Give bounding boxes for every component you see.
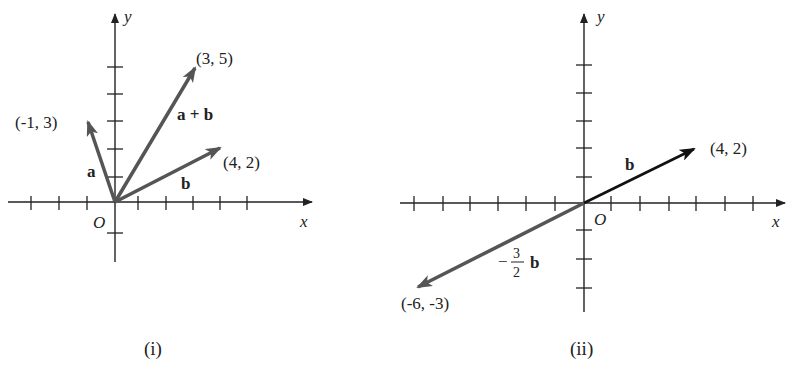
point-label-neg-three-halves-b: (-6, -3) — [401, 294, 449, 313]
point-label-a: (-1, 3) — [15, 113, 57, 132]
vector-label-neg-three-halves-b: − 3 2 b — [498, 246, 539, 280]
x-ticks — [31, 196, 247, 210]
figure-i: y x O (-1, 3) (3, 5) (4, 2) a a + b b (i… — [8, 7, 312, 360]
figure-ii: y x O (4, 2) (-6, -3) b − 3 2 b (ii) — [400, 7, 785, 360]
origin-label: O — [93, 213, 105, 232]
vector-label-b: b — [625, 155, 634, 174]
fraction-b: b — [530, 253, 539, 272]
origin-label: O — [594, 210, 606, 229]
vector-b — [584, 149, 694, 203]
vector-label-a-plus-b: a + b — [177, 105, 213, 124]
caption-i: (i) — [144, 338, 162, 360]
vector-neg-three-halves-b — [418, 203, 584, 287]
point-label-a-plus-b: (3, 5) — [196, 49, 233, 68]
x-axis-label: x — [299, 212, 308, 231]
minus-sign: − — [498, 252, 508, 271]
vector-label-b: b — [181, 174, 190, 193]
vector-label-a: a — [87, 162, 96, 181]
point-label-b: (4, 2) — [223, 153, 260, 172]
x-axis-label: x — [771, 212, 780, 231]
fraction-numerator: 3 — [513, 246, 520, 261]
vector-diagrams: y x O (-1, 3) (3, 5) (4, 2) a a + b b (i… — [0, 0, 793, 380]
caption-ii: (ii) — [570, 338, 593, 360]
y-axis-label: y — [595, 7, 605, 26]
fraction-denominator: 2 — [513, 265, 520, 280]
y-axis-label: y — [122, 7, 132, 26]
point-label-b: (4, 2) — [710, 139, 747, 158]
